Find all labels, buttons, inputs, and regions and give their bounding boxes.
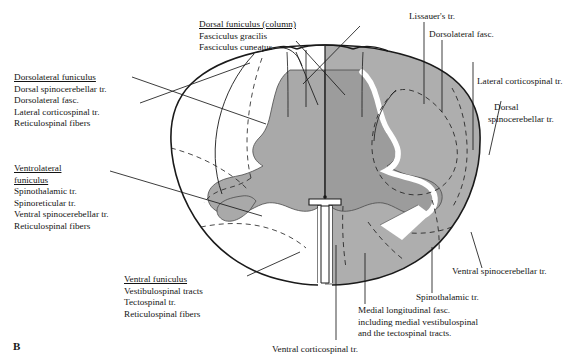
label-reticulospinal-fibers: Reticulospinal fibers xyxy=(14,118,107,130)
label-lateral-corticospinal-tract: Lateral corticospinal tr. xyxy=(477,76,562,88)
label-dorsolateral-funiculus-heading: Dorsolateral funiculus xyxy=(14,72,107,84)
label-ventral-spinocerebellar-tr-left: Ventral spinocerebellar tr. xyxy=(14,209,109,221)
label-vestibulospinal-tracts: Vestibulospinal tracts xyxy=(124,286,203,298)
label-ventrolateral-funiculus-heading-1: Ventrolateral xyxy=(14,163,109,175)
label-ventral-funiculus: Ventral funiculus Vestibulospinal tracts… xyxy=(124,274,203,320)
label-fasciculus-cuneatus: Fasciculus cuneatus xyxy=(199,42,296,54)
label-spinoreticular-tr: Spinoreticular tr. xyxy=(14,198,109,210)
label-dorsal-funiculus: Dorsal funiculus (column) Fasciculus gra… xyxy=(199,19,296,54)
label-tectospinal-tr: Tectospinal tr. xyxy=(124,297,203,309)
figure-panel-letter: B xyxy=(13,340,21,352)
label-ventrolateral-funiculus: Ventrolateral funiculus Spinothalamic tr… xyxy=(14,163,109,233)
label-reticulospinal-fibers-ventrolateral: Reticulospinal fibers xyxy=(14,221,109,233)
label-spinothalamic-tract: Spinothalamic tr. xyxy=(416,292,479,304)
label-medial-longitudinal-fasciculus: Medial longitudinal fasc. including medi… xyxy=(358,305,478,340)
label-mlf-line3: and the tectospinal tracts. xyxy=(358,328,478,340)
label-dorsal-spinocerebellar-tr: Dorsal spinocerebellar tr. xyxy=(14,84,107,96)
label-dorsal-spinocerebellar-tract: Dorsal spinocerebellar tr. xyxy=(488,102,554,125)
label-dorsolateral-fasciculus: Dorsolateral fasc. xyxy=(429,29,494,41)
label-lissauers-tract: Lissauer's tr. xyxy=(409,11,455,23)
label-lateral-corticospinal-tr: Lateral corticospinal tr. xyxy=(14,107,107,119)
label-ventral-funiculus-heading: Ventral funiculus xyxy=(124,274,203,286)
label-spinothalamic-tr-left: Spinothalamic tr. xyxy=(14,186,109,198)
label-dorsolateral-fasc: Dorsolateral fasc. xyxy=(14,95,107,107)
label-dorsal-spinocerebellar-line1: Dorsal xyxy=(494,102,554,114)
label-ventrolateral-funiculus-heading-2: funiculus xyxy=(14,175,109,187)
label-fasciculus-gracilis: Fasciculus gracilis xyxy=(199,31,296,43)
label-dorsal-funiculus-heading: Dorsal funiculus (column) xyxy=(199,19,296,31)
label-ventral-spinocerebellar-tract: Ventral spinocerebellar tr. xyxy=(452,266,547,278)
label-mlf-line2: including medial vestibulospinal xyxy=(358,317,478,329)
label-dorsal-spinocerebellar-line2: spinocerebellar tr. xyxy=(488,114,554,126)
label-mlf-line1: Medial longitudinal fasc. xyxy=(358,305,478,317)
label-reticulospinal-fibers-ventral: Reticulospinal fibers xyxy=(124,309,203,321)
label-ventral-corticospinal-tract: Ventral corticospinal tr. xyxy=(272,344,358,356)
ventral-fissure-stem xyxy=(321,206,329,283)
label-dorsolateral-funiculus: Dorsolateral funiculus Dorsal spinocereb… xyxy=(14,72,107,130)
